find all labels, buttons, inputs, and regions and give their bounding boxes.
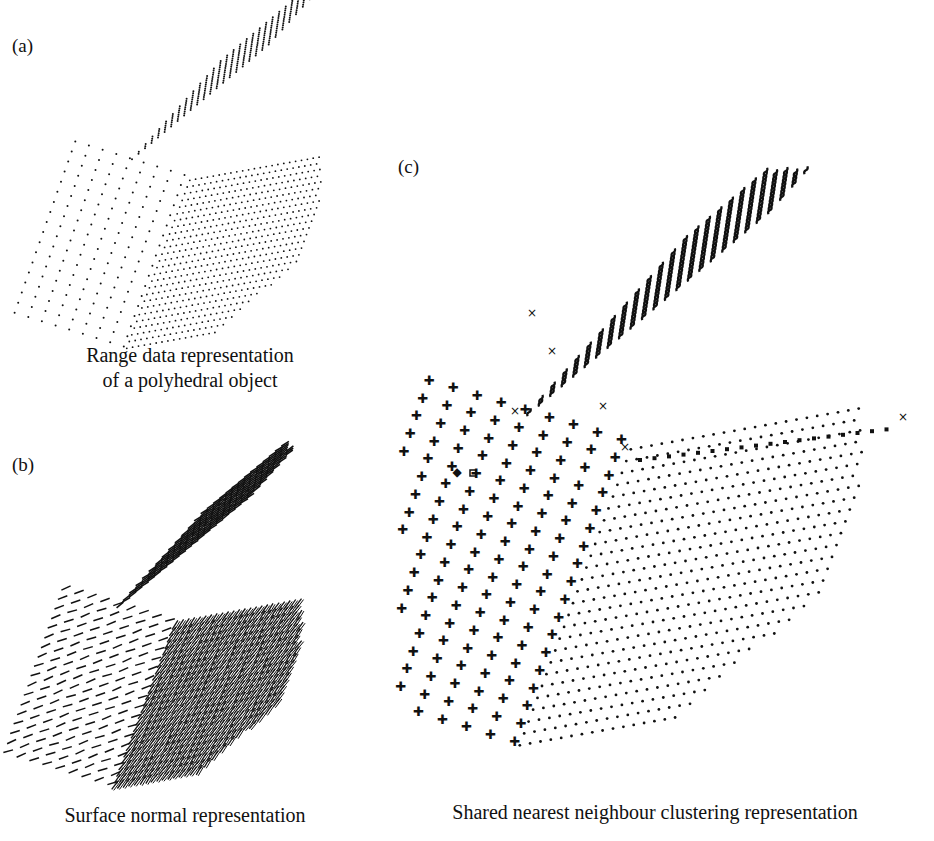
svg-text:✚: ✚ xyxy=(538,428,549,443)
svg-text:✚: ✚ xyxy=(491,709,502,724)
svg-text:✚: ✚ xyxy=(429,434,440,449)
clustering-plot: ✚✚✚✚✚✚✚✚✚✚✚✚✚✚✚✚✚✚✚✚✚✚✚✚✚✚✚✚✚✚✚✚✚✚✚✚✚✚✚✚… xyxy=(395,166,908,749)
svg-text:✚: ✚ xyxy=(506,516,517,531)
svg-text:✚: ✚ xyxy=(443,694,454,709)
svg-text:✚: ✚ xyxy=(517,638,528,653)
svg-text:✚: ✚ xyxy=(461,719,472,734)
svg-text:✚: ✚ xyxy=(524,542,535,557)
svg-text:✚: ✚ xyxy=(496,395,507,410)
svg-text:✚: ✚ xyxy=(444,616,455,631)
svg-text:✚: ✚ xyxy=(529,602,540,617)
svg-text:×: × xyxy=(547,344,557,358)
panel-c-caption: Shared nearest neighbour clustering repr… xyxy=(405,800,905,825)
svg-text:✚: ✚ xyxy=(572,556,583,571)
svg-text:✚: ✚ xyxy=(492,630,503,645)
svg-text:✚: ✚ xyxy=(483,431,494,446)
svg-text:✚: ✚ xyxy=(499,613,510,628)
svg-text:✚: ✚ xyxy=(480,666,491,681)
svg-text:✚: ✚ xyxy=(420,608,431,623)
panel-a-caption: Range data representation of a polyhedra… xyxy=(60,343,320,393)
svg-text:✚: ✚ xyxy=(553,610,564,625)
svg-text:×: × xyxy=(620,440,630,454)
svg-text:✚: ✚ xyxy=(452,519,463,534)
svg-text:✚: ✚ xyxy=(512,499,523,514)
svg-text:✚: ✚ xyxy=(456,658,467,673)
svg-text:✚: ✚ xyxy=(467,701,478,716)
svg-text:✚: ✚ xyxy=(531,445,542,460)
svg-text:✚: ✚ xyxy=(568,417,579,432)
svg-text:✚: ✚ xyxy=(562,435,573,450)
svg-text:✚: ✚ xyxy=(591,503,602,518)
svg-text:✚: ✚ xyxy=(416,469,427,484)
svg-text:✚: ✚ xyxy=(438,633,449,648)
svg-text:✚: ✚ xyxy=(397,522,408,537)
svg-text:✚: ✚ xyxy=(401,661,412,676)
svg-text:✚: ✚ xyxy=(488,491,499,506)
svg-text:✚: ✚ xyxy=(465,405,476,420)
svg-text:✚: ✚ xyxy=(542,567,553,582)
svg-text:✚: ✚ xyxy=(530,524,541,539)
svg-text:✚: ✚ xyxy=(597,485,608,500)
svg-text:✚: ✚ xyxy=(474,684,485,699)
svg-text:◆: ◆ xyxy=(452,465,462,479)
svg-text:✚: ✚ xyxy=(541,645,552,660)
svg-text:✚: ✚ xyxy=(468,623,479,638)
svg-text:✚: ✚ xyxy=(477,448,488,463)
range-data-plot xyxy=(14,0,322,349)
svg-text:✚: ✚ xyxy=(579,460,590,475)
svg-text:✚: ✚ xyxy=(482,509,493,524)
svg-text:✚: ✚ xyxy=(585,521,596,536)
svg-text:✚: ✚ xyxy=(500,534,511,549)
svg-text:✚: ✚ xyxy=(544,410,555,425)
svg-text:✚: ✚ xyxy=(481,587,492,602)
svg-text:✚: ✚ xyxy=(566,574,577,589)
svg-text:✚: ✚ xyxy=(437,712,448,727)
svg-text:✚: ✚ xyxy=(417,391,428,406)
svg-text:×: × xyxy=(527,306,537,320)
svg-text:✚: ✚ xyxy=(409,565,420,580)
svg-text:✚: ✚ xyxy=(519,481,530,496)
svg-text:✚: ✚ xyxy=(405,426,416,441)
svg-text:✚: ✚ xyxy=(495,473,506,488)
svg-text:✚: ✚ xyxy=(547,627,558,642)
svg-text:✚: ✚ xyxy=(522,698,533,713)
svg-text:✚: ✚ xyxy=(458,502,469,517)
svg-text:✚: ✚ xyxy=(510,656,521,671)
svg-text:✚: ✚ xyxy=(428,512,439,527)
svg-text:✚: ✚ xyxy=(419,687,430,702)
panel-c-caption-line-1: Shared nearest neighbour clustering repr… xyxy=(405,800,905,825)
svg-text:✚: ✚ xyxy=(439,555,450,570)
svg-text:✚: ✚ xyxy=(518,559,529,574)
svg-text:✚: ✚ xyxy=(586,442,597,457)
svg-text:✚: ✚ xyxy=(592,425,603,440)
svg-text:✚: ✚ xyxy=(559,592,570,607)
svg-text:✚: ✚ xyxy=(448,380,459,395)
svg-text:✚: ✚ xyxy=(475,605,486,620)
svg-text:✚: ✚ xyxy=(441,398,452,413)
svg-text:✚: ✚ xyxy=(561,513,572,528)
svg-text:✚: ✚ xyxy=(463,562,474,577)
svg-text:✚: ✚ xyxy=(549,471,560,486)
panel-b-caption-line-1: Surface normal representation xyxy=(30,803,340,828)
svg-text:✚: ✚ xyxy=(498,691,509,706)
surface-normal-plot xyxy=(3,441,305,790)
svg-text:✚: ✚ xyxy=(424,373,435,388)
svg-text:✚: ✚ xyxy=(427,590,438,605)
svg-text:✚: ✚ xyxy=(403,583,414,598)
svg-text:✚: ✚ xyxy=(421,530,432,545)
svg-text:✚: ✚ xyxy=(534,663,545,678)
svg-text:✚: ✚ xyxy=(501,456,512,471)
svg-text:✚: ✚ xyxy=(470,545,481,560)
svg-text:✚: ✚ xyxy=(567,496,578,511)
svg-text:✚: ✚ xyxy=(573,478,584,493)
panel-a-caption-line-2: of a polyhedral object xyxy=(60,368,320,393)
svg-text:✚: ✚ xyxy=(396,601,407,616)
figure-plots: ✚✚✚✚✚✚✚✚✚✚✚✚✚✚✚✚✚✚✚✚✚✚✚✚✚✚✚✚✚✚✚✚✚✚✚✚✚✚✚✚… xyxy=(0,0,934,841)
svg-text:✚: ✚ xyxy=(457,580,468,595)
svg-text:✚: ✚ xyxy=(433,573,444,588)
svg-text:✚: ✚ xyxy=(505,595,516,610)
svg-text:✚: ✚ xyxy=(440,476,451,491)
svg-text:✚: ✚ xyxy=(578,539,589,554)
svg-text:✚: ✚ xyxy=(395,679,406,694)
svg-text:✚: ✚ xyxy=(408,644,419,659)
